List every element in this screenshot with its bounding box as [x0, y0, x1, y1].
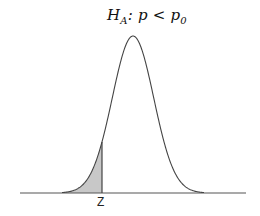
normal-curve-diagram — [0, 0, 260, 216]
critical-value-label: Z — [97, 195, 104, 209]
bell-curve — [62, 36, 204, 193]
